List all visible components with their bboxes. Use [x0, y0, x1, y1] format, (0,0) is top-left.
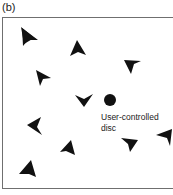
arrowhead-icon: [70, 40, 86, 56]
arena-field: [0, 0, 173, 195]
disc-label: User-controlled disc: [101, 112, 159, 133]
user-controlled-disc[interactable]: [104, 94, 116, 106]
disc-label-line2: disc: [101, 123, 159, 134]
disc-label-line1: User-controlled: [101, 112, 159, 123]
arrowhead-icon: [124, 60, 141, 74]
arrowhead-icon: [22, 28, 38, 46]
arrowhead-icon: [36, 70, 51, 86]
arrowhead-icon: [60, 140, 75, 155]
arrowhead-icon: [75, 94, 93, 107]
arrowhead-icon: [19, 160, 36, 177]
arrowhead-icon: [121, 138, 138, 152]
arrowhead-icon: [27, 117, 42, 135]
